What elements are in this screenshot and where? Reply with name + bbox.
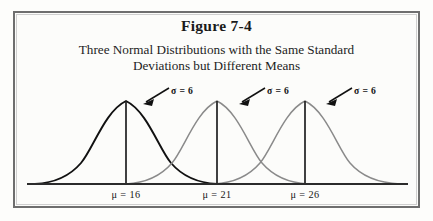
sigma-arrow-1 xyxy=(143,88,169,106)
sigma-arrow-2 xyxy=(239,88,265,106)
figure-container: Figure 7-4 Three Normal Distributions wi… xyxy=(0,0,433,221)
mu-label-2: μ = 21 xyxy=(187,189,247,200)
normal-distributions-plot xyxy=(13,11,420,208)
sigma-label-2: σ = 6 xyxy=(267,85,289,96)
sigma-label-3: σ = 6 xyxy=(354,85,376,96)
mu-label-3: μ = 26 xyxy=(275,189,335,200)
sigma-label-1: σ = 6 xyxy=(171,85,193,96)
normal-curve-mu-26 xyxy=(214,101,400,184)
mu-label-1: μ = 16 xyxy=(96,189,156,200)
sigma-arrow-3 xyxy=(326,88,352,106)
